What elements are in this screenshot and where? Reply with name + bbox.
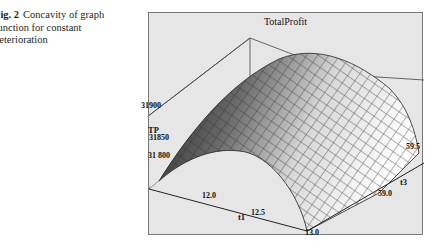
z-tick: 31 800	[148, 151, 170, 160]
z-tick: 31850	[149, 133, 169, 142]
y-tick: 59.5	[406, 142, 420, 151]
z-tick: 31900	[141, 101, 161, 110]
surface-plot-graphic	[149, 13, 424, 236]
plot-title: TotalProfit	[149, 16, 422, 27]
y-axis-label: t3	[400, 177, 407, 187]
y-tick: 59.0	[378, 189, 392, 198]
x-axis-label: t1	[238, 212, 245, 222]
x-tick: 12.0	[202, 191, 216, 200]
x-tick: 13.0	[305, 228, 319, 237]
x-tick: 12.5	[251, 208, 265, 217]
figure-label: Fig. 2	[0, 9, 19, 20]
figure-caption: Fig. 2Concavity of graph function for co…	[0, 9, 134, 47]
surface-plot: TotalProfit	[148, 12, 423, 235]
